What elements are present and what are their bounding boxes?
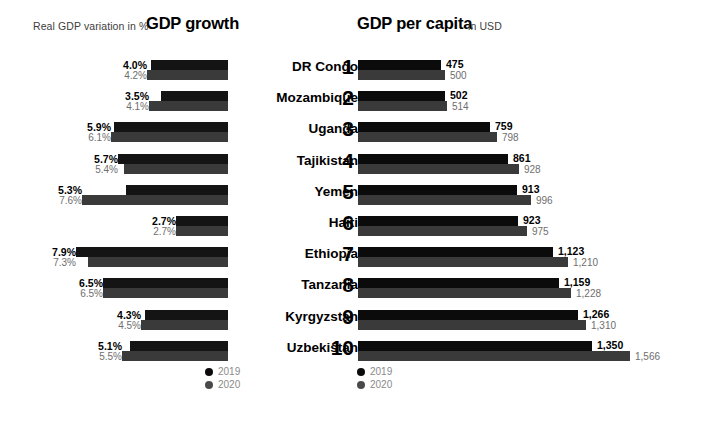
legend-item-2019: 2019 <box>357 365 392 378</box>
table-row: 4.0%4.2%DR Congo1475500 <box>0 60 716 91</box>
capita-value-2020: 514 <box>452 101 469 113</box>
rank-number: 7 <box>306 242 354 265</box>
growth-bar-2019 <box>126 185 228 195</box>
capita-bar-2019 <box>358 341 592 351</box>
legend-dot-2019-icon <box>357 368 365 376</box>
table-row: 6.5%6.5%Tanzania81,1591,228 <box>0 278 716 309</box>
legend-dot-2020-icon <box>357 381 365 389</box>
growth-bar-2020 <box>88 257 228 267</box>
capita-subtitle: in USD <box>468 20 502 32</box>
growth-bar-2020 <box>111 132 228 142</box>
growth-bar-2020 <box>149 101 228 111</box>
capita-legend: 2019 2020 <box>357 365 392 391</box>
rank-number: 8 <box>306 273 354 296</box>
capita-bar-2019 <box>358 247 553 257</box>
capita-value-2019: 1,123 <box>558 245 584 257</box>
growth-value-2020: 6.1% <box>88 132 111 144</box>
rank-number: 6 <box>306 211 354 234</box>
capita-bar-2020 <box>358 132 497 142</box>
capita-bar-2019 <box>358 154 508 164</box>
growth-value-2020: 5.5% <box>99 351 122 363</box>
capita-value-2019: 759 <box>495 120 513 132</box>
legend-item-2019: 2019 <box>205 365 240 378</box>
table-row: 7.9%7.3%Ethiopia71,1231,210 <box>0 247 716 278</box>
capita-title: GDP per capita <box>357 14 472 33</box>
capita-bar-2020 <box>358 257 568 267</box>
rank-number: 4 <box>306 149 354 172</box>
table-row: 5.3%7.6%Yemen5913996 <box>0 185 716 216</box>
capita-value-2020: 1,310 <box>591 320 616 332</box>
capita-value-2020: 1,228 <box>576 288 601 300</box>
growth-value-2020: 7.3% <box>53 257 76 269</box>
legend-label-2020: 2020 <box>218 378 240 391</box>
growth-value-group: 3.5%4.1% <box>29 91 149 122</box>
capita-bar-2019 <box>358 60 441 70</box>
rank-number: 1 <box>306 55 354 78</box>
capita-value-2019: 1,159 <box>564 276 590 288</box>
legend-dot-2019-icon <box>205 368 213 376</box>
capita-value-2019: 923 <box>523 214 541 226</box>
capita-value-2019: 1,350 <box>597 339 623 351</box>
growth-value-group: 5.9%6.1% <box>0 122 111 153</box>
capita-bar-2019 <box>358 185 517 195</box>
capita-value-2020: 996 <box>536 195 553 207</box>
legend-label-2019: 2019 <box>218 365 240 378</box>
capita-value-2020: 928 <box>524 164 541 176</box>
growth-legend: 2019 2020 <box>205 365 240 391</box>
growth-value-2020: 5.4% <box>95 164 118 176</box>
growth-bar-2020 <box>124 164 228 174</box>
capita-bar-2020 <box>358 320 586 330</box>
growth-value-group: 6.5%6.5% <box>0 278 103 309</box>
capita-bar-2020 <box>358 288 571 298</box>
capita-bar-2019 <box>358 216 518 226</box>
legend-label-2019: 2019 <box>370 365 392 378</box>
infographic-root: Real GDP variation in % GDP growth GDP p… <box>0 0 716 421</box>
growth-bar-2019 <box>118 154 228 164</box>
capita-bar-2020 <box>358 195 531 205</box>
growth-bar-2019 <box>176 216 228 226</box>
growth-bar-2020 <box>103 288 228 298</box>
growth-bar-2019 <box>130 341 228 351</box>
growth-bar-2019 <box>114 122 228 132</box>
rank-number: 2 <box>306 86 354 109</box>
capita-value-2019: 475 <box>446 58 464 70</box>
capita-bar-2020 <box>358 164 519 174</box>
capita-value-2020: 1,566 <box>635 351 660 363</box>
growth-bar-2020 <box>176 226 228 236</box>
capita-bar-2020 <box>358 70 445 80</box>
growth-value-group: 4.0%4.2% <box>27 60 147 91</box>
rank-number: 9 <box>306 305 354 328</box>
table-row: 2.7%2.7%Haiti6923975 <box>0 216 716 247</box>
growth-value-2020: 7.6% <box>59 195 82 207</box>
table-row: 4.3%4.5%Kyrgyzstan91,2661,310 <box>0 310 716 341</box>
capita-value-2020: 975 <box>532 226 549 238</box>
legend-dot-2020-icon <box>205 381 213 389</box>
growth-bar-2019 <box>76 247 228 257</box>
growth-bar-2019 <box>151 60 228 70</box>
capita-value-2019: 913 <box>522 183 540 195</box>
growth-value-2020: 6.5% <box>80 288 103 300</box>
capita-bar-2019 <box>358 278 559 288</box>
capita-bar-2020 <box>358 226 527 236</box>
growth-subtitle: Real GDP variation in % <box>33 20 148 32</box>
growth-value-2020: 4.5% <box>118 320 141 332</box>
capita-value-2019: 861 <box>513 152 531 164</box>
rank-number: 5 <box>306 180 354 203</box>
table-row: 3.5%4.1%Mozambique2502514 <box>0 91 716 122</box>
growth-bar-2019 <box>145 310 228 320</box>
legend-item-2020: 2020 <box>205 378 240 391</box>
capita-value-2019: 502 <box>450 89 468 101</box>
growth-bar-2020 <box>141 320 228 330</box>
growth-value-group: 5.1%5.5% <box>2 341 122 372</box>
capita-bar-2020 <box>358 351 630 361</box>
growth-value-group: 4.3%4.5% <box>21 310 141 341</box>
growth-value-2020: 4.2% <box>124 70 147 82</box>
capita-bar-2019 <box>358 91 445 101</box>
growth-value-group: 5.3%7.6% <box>0 185 82 216</box>
growth-bar-2020 <box>122 351 228 361</box>
rank-number: 3 <box>306 117 354 140</box>
capita-bar-2020 <box>358 101 447 111</box>
growth-bar-2020 <box>147 70 228 80</box>
growth-bar-2019 <box>161 91 228 101</box>
capita-bar-2019 <box>358 122 490 132</box>
